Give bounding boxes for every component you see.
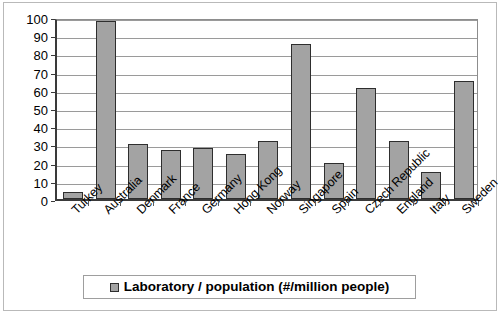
chart-legend: Laboratory / population (#/million peopl… [83,275,416,299]
y-tick-mark [51,37,55,38]
y-tick-mark [51,183,55,184]
bar-slot [350,20,383,199]
y-tick-label: 60 [0,85,48,98]
x-tick-mark [185,201,186,206]
x-tick-mark [348,201,349,206]
bar[interactable] [128,144,148,199]
x-tick-mark [380,201,381,206]
bar[interactable] [63,192,83,199]
y-tick-label: 70 [0,67,48,80]
bar-slot [382,20,415,199]
x-tick-mark [315,201,316,206]
x-tick-mark [88,201,89,206]
bar[interactable] [356,88,376,199]
bar-slot [187,20,220,199]
bar[interactable] [324,163,344,199]
bar[interactable] [96,21,116,199]
y-tick-label: 90 [0,31,48,44]
bars-layer [57,20,477,199]
bar[interactable] [389,141,409,199]
x-tick-mark [153,201,154,206]
bar[interactable] [226,154,246,200]
bar-slot [57,20,90,199]
bar[interactable] [421,172,441,199]
bar-slot [220,20,253,199]
y-tick-label: 100 [0,13,48,26]
x-tick-mark [283,201,284,206]
y-axis: 0102030405060708090100 [0,0,48,230]
y-tick-label: 40 [0,122,48,135]
bar[interactable] [258,141,278,199]
x-tick-mark [478,201,479,206]
y-tick-mark [51,74,55,75]
y-tick-mark [51,19,55,20]
bar-slot [122,20,155,199]
x-tick-mark [445,201,446,206]
bar-chart-figure: 0102030405060708090100 TurkeyAustraliaDe… [0,0,501,314]
x-tick-mark [120,201,121,206]
y-tick-mark [51,128,55,129]
legend-label: Laboratory / population (#/million peopl… [124,280,390,294]
bar[interactable] [161,150,181,199]
bar-slot [252,20,285,199]
y-tick-mark [51,92,55,93]
bar-slot [285,20,318,199]
plot-area [55,19,478,201]
y-tick-label: 80 [0,49,48,62]
y-tick-label: 20 [0,158,48,171]
x-tick-mark [413,201,414,206]
bar-slot [155,20,188,199]
y-tick-mark [51,201,55,202]
y-tick-label: 30 [0,140,48,153]
y-tick-label: 0 [0,195,48,208]
x-tick-mark [218,201,219,206]
bar-slot [317,20,350,199]
bar-slot [447,20,480,199]
x-tick-mark [250,201,251,206]
y-tick-label: 50 [0,104,48,117]
bar-slot [90,20,123,199]
bar[interactable] [454,81,474,199]
bar[interactable] [291,44,311,199]
y-tick-mark [51,165,55,166]
y-tick-mark [51,55,55,56]
bar-slot [415,20,448,199]
y-tick-mark [51,146,55,147]
bar[interactable] [193,148,213,199]
y-tick-label: 10 [0,176,48,189]
legend-swatch-icon [110,283,119,292]
y-tick-mark [51,110,55,111]
